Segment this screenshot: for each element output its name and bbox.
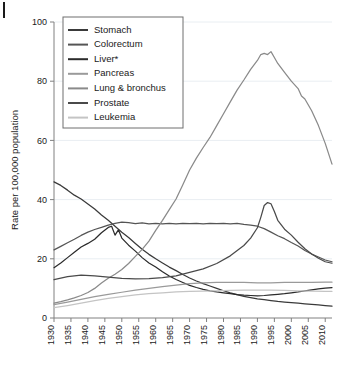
y-tick-label: 100	[32, 17, 47, 27]
cancer-death-rate-chart: 020406080100 193019351940194519501955196…	[0, 0, 340, 368]
x-tick-label: 1935	[63, 325, 73, 345]
x-tick-label: 1995	[266, 325, 276, 345]
x-tick-label: 1960	[148, 325, 158, 345]
legend-label: Leukemia	[94, 111, 136, 122]
legend-label: Colorectum	[94, 38, 143, 49]
legend-label: Pancreas	[94, 67, 134, 78]
legend-label: Stomach	[94, 24, 132, 35]
x-tick-label: 1970	[182, 325, 192, 345]
x-tick-label: 1975	[199, 325, 209, 345]
y-tick-label: 20	[37, 254, 47, 264]
x-tick-label: 2000	[283, 325, 293, 345]
y-tick-label: 0	[42, 313, 47, 323]
y-tick-label: 40	[37, 195, 47, 205]
legend-label: Liver*	[94, 53, 119, 64]
x-tick-label: 2010	[317, 325, 327, 345]
x-tick-label: 2005	[300, 325, 310, 345]
y-tick-label: 60	[37, 136, 47, 146]
legend-label: Lung & bronchus	[94, 82, 166, 93]
legend-label: Prostate	[94, 97, 129, 108]
x-tick-label: 1945	[97, 325, 107, 345]
y-tick-label: 80	[37, 76, 47, 86]
x-tick-label: 1980	[216, 325, 226, 345]
x-tick-label: 1950	[114, 325, 124, 345]
x-tick-label: 1990	[249, 325, 259, 345]
x-tick-label: 1955	[131, 325, 141, 345]
chart-legend: StomachColorectumLiver*PancreasLung & br…	[63, 17, 183, 128]
y-axis-title: Rate per 100,000 population	[9, 110, 20, 230]
x-tick-label: 1965	[165, 325, 175, 345]
x-tick-label: 1930	[46, 325, 56, 345]
x-tick-label: 1940	[80, 325, 90, 345]
x-tick-label: 1985	[232, 325, 242, 345]
